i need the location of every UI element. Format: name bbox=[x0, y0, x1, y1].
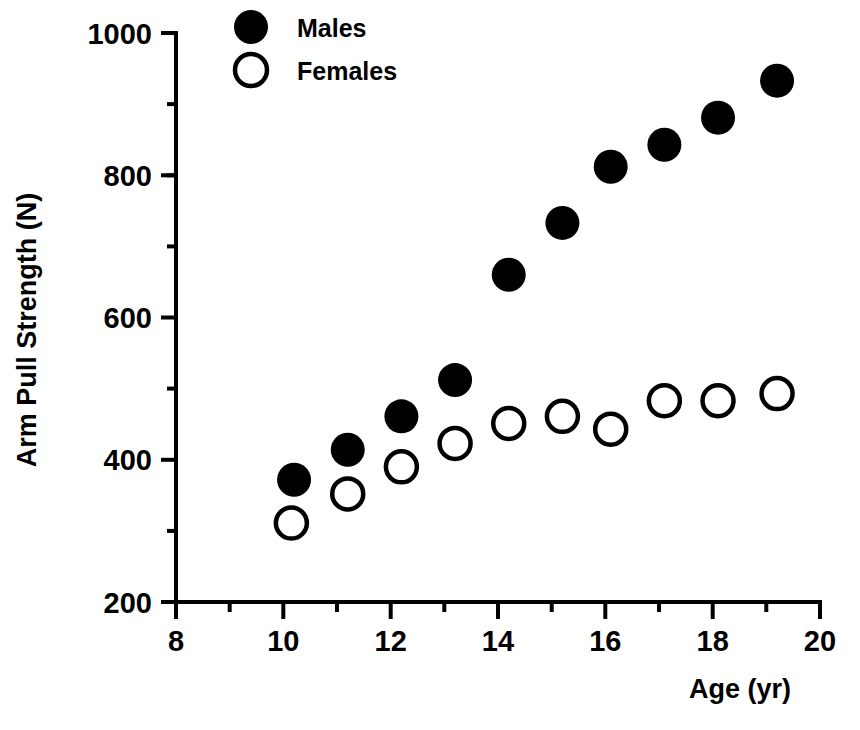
data-point-males bbox=[492, 258, 526, 292]
y-axis-ticks bbox=[161, 33, 176, 602]
data-point-females bbox=[276, 508, 307, 539]
x-tick-label-12: 12 bbox=[375, 625, 407, 657]
x-axis-tick-labels: 8 10 12 14 16 18 20 bbox=[168, 625, 836, 657]
y-axis-title: Arm Pull Strength (N) bbox=[12, 193, 42, 468]
data-point-females bbox=[547, 401, 578, 432]
data-point-males bbox=[438, 363, 472, 397]
data-point-females bbox=[649, 385, 680, 416]
legend-label-females: Females bbox=[297, 57, 397, 85]
data-point-males bbox=[701, 101, 735, 135]
data-point-females bbox=[386, 451, 417, 482]
series-males-points bbox=[277, 64, 794, 497]
x-tick-label-10: 10 bbox=[267, 625, 299, 657]
data-point-females bbox=[440, 428, 471, 459]
legend-marker-males bbox=[234, 10, 268, 44]
data-point-females bbox=[595, 414, 626, 445]
data-point-males bbox=[277, 463, 311, 497]
data-point-females bbox=[762, 378, 793, 409]
x-tick-label-8: 8 bbox=[168, 625, 184, 657]
data-point-males bbox=[647, 128, 681, 162]
y-tick-label-800: 800 bbox=[104, 160, 152, 192]
data-point-males bbox=[760, 64, 794, 98]
legend: Males Females bbox=[234, 10, 397, 86]
data-point-females bbox=[493, 408, 524, 439]
data-point-males bbox=[384, 399, 418, 433]
data-point-males bbox=[545, 206, 579, 240]
scatter-plot-svg: 1000 800 600 400 200 8 10 12 bbox=[0, 0, 860, 730]
x-tick-label-20: 20 bbox=[804, 625, 836, 657]
y-tick-label-400: 400 bbox=[104, 444, 152, 476]
data-point-females bbox=[703, 385, 734, 416]
y-tick-label-1000: 1000 bbox=[87, 18, 152, 50]
data-point-males bbox=[331, 433, 365, 467]
data-point-females bbox=[332, 478, 363, 509]
x-axis-ticks bbox=[176, 602, 820, 619]
y-axis-tick-labels: 1000 800 600 400 200 bbox=[87, 18, 152, 619]
legend-label-males: Males bbox=[297, 14, 366, 42]
legend-marker-females bbox=[235, 54, 267, 86]
x-axis-title: Age (yr) bbox=[689, 674, 791, 704]
x-tick-label-18: 18 bbox=[697, 625, 729, 657]
chart-figure: 1000 800 600 400 200 8 10 12 bbox=[0, 0, 860, 730]
x-tick-label-14: 14 bbox=[482, 625, 514, 657]
y-tick-label-200: 200 bbox=[104, 587, 152, 619]
x-tick-label-16: 16 bbox=[589, 625, 621, 657]
y-tick-label-600: 600 bbox=[104, 302, 152, 334]
data-point-males bbox=[594, 150, 628, 184]
